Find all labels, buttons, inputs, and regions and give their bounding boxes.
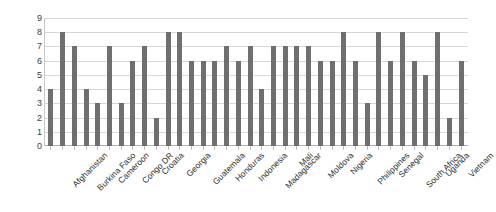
bar-slot [115,18,127,146]
bar-slot [244,18,256,146]
y-axis: 0123456789 [26,18,42,146]
tick-mark [86,146,87,150]
bar [95,103,100,146]
tick-mark [74,146,75,150]
bar-slot [443,18,455,146]
tick-mark [97,146,98,150]
tick-mark [132,146,133,150]
bar [376,32,381,146]
bar-slot [315,18,327,146]
bar [130,61,135,146]
tick-mark [50,146,51,150]
bar-slot [150,18,162,146]
bar-slot [373,18,385,146]
tick-mark [156,146,157,150]
tick-mark [191,146,192,150]
y-axis-tick-label: 0 [37,142,42,151]
bar [283,46,288,146]
tick-mark [414,146,415,150]
bar-slot [338,18,350,146]
bar [306,46,311,146]
tick-mark [285,146,286,150]
bar-slot [162,18,174,146]
bar-slot [57,18,69,146]
tick-mark [121,146,122,150]
bar [435,32,440,146]
tick-mark [449,146,450,150]
tick-mark [179,146,180,150]
bar-slot [291,18,303,146]
tick-mark [261,146,262,150]
bar-slot [256,18,268,146]
bar-slot [92,18,104,146]
bar-slot [408,18,420,146]
bar [236,61,241,146]
y-axis-tick-label: 6 [37,56,42,65]
bar-slot [233,18,245,146]
bar [72,46,77,146]
bar-slot [186,18,198,146]
tick-mark [214,146,215,150]
bar-slot [209,18,221,146]
y-axis-tick-label: 4 [37,85,42,94]
bar-slot [455,18,467,146]
bar [201,61,206,146]
bar-slot [221,18,233,146]
bar-slot [303,18,315,146]
bar-slot [361,18,373,146]
bar [271,46,276,146]
tick-mark [390,146,391,150]
bar [189,61,194,146]
tick-mark [402,146,403,150]
tick-mark [461,146,462,150]
bar [294,46,299,146]
y-axis-tick-label: 5 [37,70,42,79]
bar [259,89,264,146]
bar [154,118,159,146]
bar [166,32,171,146]
tick-mark [109,146,110,150]
tick-mark [296,146,297,150]
bar [177,32,182,146]
bar-slot [174,18,186,146]
bar [60,32,65,146]
tick-mark [343,146,344,150]
bar-series [44,18,468,146]
bar-slot [385,18,397,146]
bar-slot [350,18,362,146]
tick-mark [437,146,438,150]
bar [248,46,253,146]
bar-slot [104,18,116,146]
y-axis-tick-label: 9 [37,14,42,23]
tick-mark [226,146,227,150]
tick-mark [273,146,274,150]
bar-slot [45,18,57,146]
bar [459,61,464,146]
y-axis-tick-label: 3 [37,99,42,108]
bar [119,103,124,146]
tick-mark [250,146,251,150]
bar-slot [326,18,338,146]
bar-slot [80,18,92,146]
bar [107,46,112,146]
bar [318,61,323,146]
bar [330,61,335,146]
tick-mark [425,146,426,150]
tick-mark [355,146,356,150]
bar [142,46,147,146]
x-axis-label: Georgia [185,151,212,178]
tick-mark [238,146,239,150]
bar-slot [397,18,409,146]
y-axis-tick-label: 2 [37,113,42,122]
bar [353,61,358,146]
bar [212,61,217,146]
tick-mark [320,146,321,150]
tick-mark [62,146,63,150]
bar [400,32,405,146]
bar-slot [139,18,151,146]
x-axis-label: Vietnam [467,151,495,179]
bar [388,61,393,146]
bar-slot [420,18,432,146]
bar [84,89,89,146]
tick-mark [332,146,333,150]
